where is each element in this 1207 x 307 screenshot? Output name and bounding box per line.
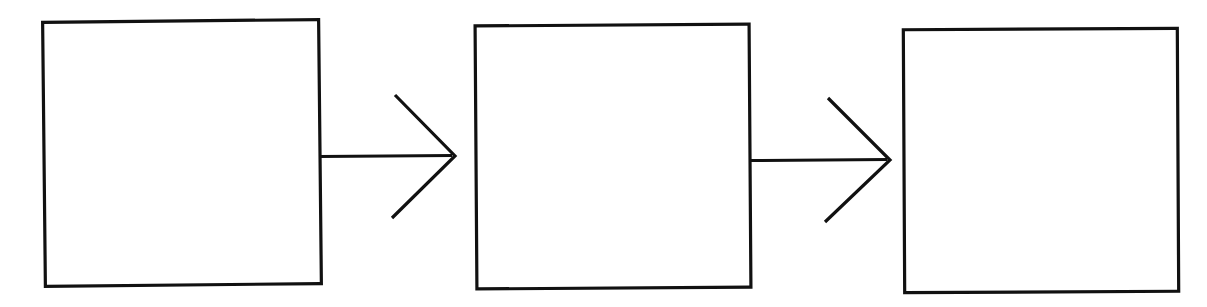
arrow-one-shaft [320, 156, 452, 157]
stage-one-box[interactable] [43, 20, 322, 287]
stage-one-box-group[interactable] [43, 20, 322, 287]
diagram-canvas [0, 0, 1207, 307]
stage-three-box-group[interactable] [903, 28, 1178, 292]
arrow-stage-two-to-stage-three[interactable] [750, 98, 890, 222]
arrow-stage-one-to-stage-two[interactable] [320, 95, 455, 218]
stage-two-box[interactable] [475, 24, 751, 289]
arrow-two-shaft [750, 160, 887, 161]
stage-two-box-group[interactable] [475, 24, 751, 289]
flowchart-svg [0, 0, 1207, 307]
stage-three-box[interactable] [903, 28, 1178, 292]
